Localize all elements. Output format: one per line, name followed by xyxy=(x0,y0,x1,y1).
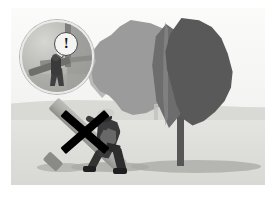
scene-plate: ! xyxy=(11,8,265,185)
tree-shadow xyxy=(131,160,261,173)
distant-figure xyxy=(154,104,158,120)
detail-inset-circle: ! xyxy=(20,20,94,94)
worker-boot-back xyxy=(83,166,96,172)
warning-bubble: ! xyxy=(54,32,78,56)
inset-ground xyxy=(22,74,92,92)
exclamation-icon: ! xyxy=(64,36,69,51)
illustration-page: ! xyxy=(0,0,276,200)
prohibition-x-icon xyxy=(59,106,111,158)
worker-boot-front xyxy=(113,168,127,174)
